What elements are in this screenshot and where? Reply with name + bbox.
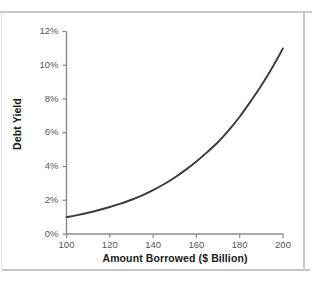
y-tick-label: 0% <box>19 228 59 239</box>
y-tick-label: 6% <box>19 126 59 137</box>
x-tick-label: 180 <box>220 239 260 250</box>
x-axis-title: Amount Borrowed ($ Billion) <box>66 252 284 264</box>
x-tick-label: 100 <box>47 239 87 250</box>
y-tick-label: 2% <box>19 194 59 205</box>
chart-figure: Debt Yield Amount Borrowed ($ Billion) 0… <box>0 0 312 284</box>
x-tick-label: 160 <box>176 239 216 250</box>
y-tick-label: 10% <box>19 59 59 70</box>
x-tick-label: 200 <box>263 239 303 250</box>
x-tick-label: 140 <box>133 239 173 250</box>
x-tick-label: 120 <box>90 239 130 250</box>
y-tick-label: 12% <box>19 25 59 36</box>
y-tick-label: 8% <box>19 93 59 104</box>
y-tick-label: 4% <box>19 160 59 171</box>
